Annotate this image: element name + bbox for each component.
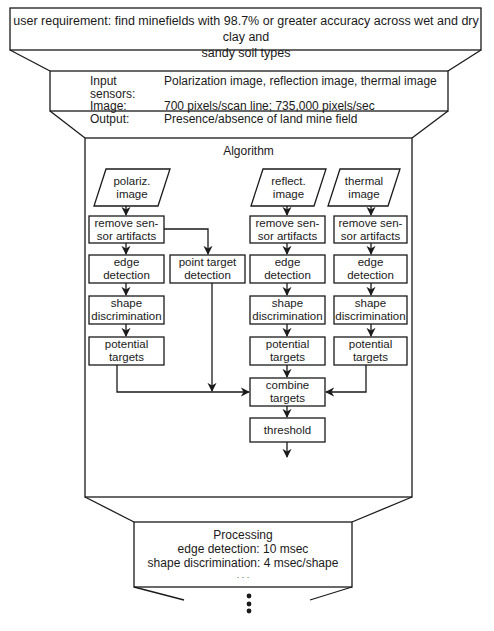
remove-artifacts-reflect: remove sen-sor artifacts (250, 216, 325, 243)
edge-detection-thermal: edgedetection (334, 255, 407, 283)
spec-value: Polarization image, reflection image, th… (164, 75, 437, 100)
combine-targets: combinetargets (250, 378, 325, 406)
polariz-image-input: polariz.image (98, 169, 166, 206)
potential-targets-polariz: potentialtargets (89, 337, 164, 365)
spec-row-output: Output: Presence/absence of land mine fi… (90, 113, 437, 126)
point-target-detection: point targetdetection (170, 255, 245, 283)
spec-value: Presence/absence of land mine field (164, 113, 357, 126)
spec-key: Output: (90, 113, 164, 126)
remove-artifacts-polariz: remove sen-sor artifacts (89, 216, 164, 243)
edge-detection-reflect: edgedetection (250, 255, 325, 283)
spec-key: Image: (90, 100, 164, 113)
threshold: threshold (250, 418, 325, 442)
processing-block: Processing edge detection: 10 msec shape… (134, 528, 352, 580)
processing-line: shape discrimination: 4 msec/shape (134, 556, 352, 570)
processing-line: edge detection: 10 msec (134, 542, 352, 556)
continuation-dots (247, 594, 252, 614)
user-requirement: user requirement: find minefields with 9… (12, 13, 480, 61)
spec-key: Input sensors: (90, 75, 164, 100)
spec-table: Input sensors: Polarization image, refle… (90, 75, 437, 125)
spec-value: 700 pixels/scan line; 735,000 pixels/sec (164, 100, 375, 113)
reflect-image-input: reflect.image (255, 169, 322, 206)
spec-row-image: Image: 700 pixels/scan line; 735,000 pix… (90, 100, 437, 113)
shape-discrimination-reflect: shapediscrimination (250, 296, 325, 324)
shape-discrimination-polariz: shapediscrimination (89, 296, 164, 324)
shape-discrimination-thermal: shapediscrimination (334, 296, 407, 324)
requirement-line-2: sandy soil types (12, 45, 480, 61)
thermal-image-input: thermalimage (332, 169, 396, 206)
potential-targets-reflect: potentialtargets (250, 337, 325, 365)
potential-targets-thermal: potentialtargets (334, 337, 407, 365)
edge-detection-polariz: edgedetection (89, 255, 164, 283)
processing-line: . . . (134, 570, 352, 580)
algorithm-title: Algorithm (85, 144, 412, 158)
spec-row-input-sensors: Input sensors: Polarization image, refle… (90, 75, 437, 100)
processing-title: Processing (134, 528, 352, 542)
remove-artifacts-thermal: remove sen-sor artifacts (334, 216, 407, 243)
requirement-line-1: user requirement: find minefields with 9… (12, 13, 480, 45)
